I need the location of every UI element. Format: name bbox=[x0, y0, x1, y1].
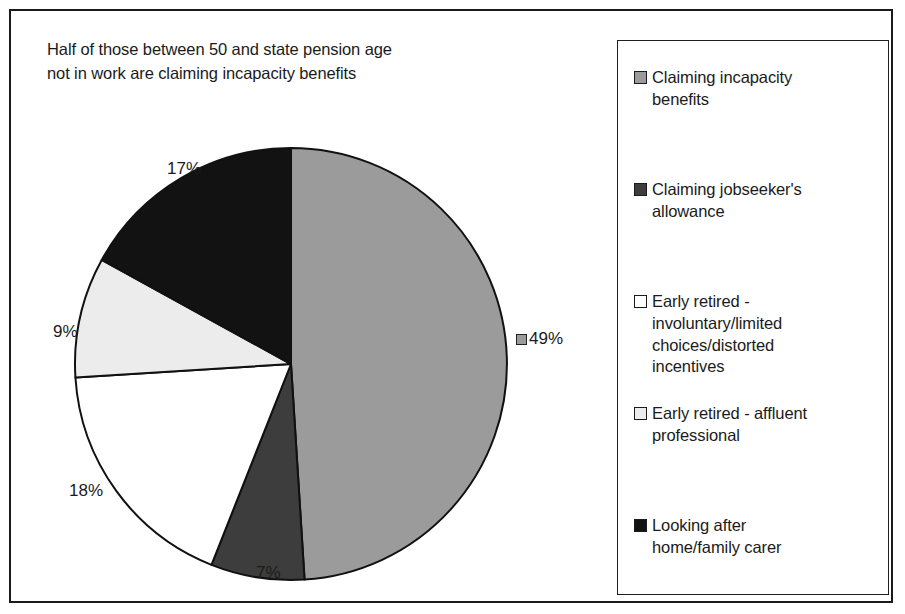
legend-item[interactable]: Early retired - involuntary/limited choi… bbox=[634, 291, 878, 378]
pie-chart bbox=[71, 144, 511, 584]
legend-swatch-icon bbox=[634, 295, 647, 308]
pie-slice bbox=[291, 148, 507, 580]
legend-swatch-icon bbox=[634, 407, 647, 420]
pie-data-label-17: 17% bbox=[167, 159, 201, 179]
pie-label-text: 7% bbox=[256, 563, 281, 582]
pie-label-text: 18% bbox=[69, 481, 103, 500]
legend-item-label: Claiming incapacity benefits bbox=[652, 67, 792, 111]
pie-label-text: 49% bbox=[529, 329, 563, 348]
chart-page: Half of those between 50 and state pensi… bbox=[0, 0, 905, 614]
pie-data-label-18: 18% bbox=[69, 481, 103, 501]
legend-swatch-icon bbox=[634, 183, 647, 196]
legend-item-label: Looking after home/family carer bbox=[652, 515, 781, 559]
legend-box: Claiming incapacity benefitsClaiming job… bbox=[617, 40, 889, 595]
pie-label-swatch bbox=[516, 334, 527, 345]
legend-swatch-icon bbox=[634, 71, 647, 84]
outer-frame: Half of those between 50 and state pensi… bbox=[9, 9, 893, 603]
pie-data-label-9: 9% bbox=[53, 322, 78, 342]
pie-svg bbox=[71, 144, 511, 584]
chart-title: Half of those between 50 and state pensi… bbox=[47, 37, 567, 86]
pie-label-text: 9% bbox=[53, 322, 78, 341]
pie-data-label-49: 49% bbox=[516, 329, 563, 349]
legend-item-label: Early retired - affluent professional bbox=[652, 403, 807, 447]
legend-item[interactable]: Claiming incapacity benefits bbox=[634, 67, 878, 111]
legend-item[interactable]: Early retired - affluent professional bbox=[634, 403, 878, 447]
legend-item[interactable]: Looking after home/family carer bbox=[634, 515, 878, 559]
legend-swatch-icon bbox=[634, 519, 647, 532]
pie-data-label-7: 7% bbox=[256, 563, 281, 583]
pie-label-text: 17% bbox=[167, 159, 201, 178]
legend-item-label: Early retired - involuntary/limited choi… bbox=[652, 291, 782, 378]
legend-item-label: Claiming jobseeker's allowance bbox=[652, 179, 802, 223]
legend-item[interactable]: Claiming jobseeker's allowance bbox=[634, 179, 878, 223]
